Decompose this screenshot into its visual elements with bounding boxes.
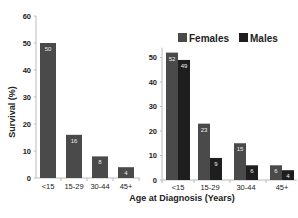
survival-chart: 010203040506050<151615-29830-44445+Survi… (0, 0, 298, 218)
left-bar-<15 (40, 43, 56, 178)
left-x-tick-label: 45+ (120, 182, 133, 191)
right-x-tick-label: <15 (172, 183, 185, 192)
legend-swatch-males (239, 33, 248, 42)
right-x-tick-label: 45+ (276, 183, 289, 192)
right-bar-value-label: 15 (237, 146, 244, 152)
left-x-tick-label: 15-29 (64, 182, 83, 191)
legend-label-males: Males (250, 33, 278, 44)
right-bar-value-label: 23 (201, 127, 208, 133)
left-x-tick-label: 30-44 (90, 182, 109, 191)
right-y-tick-label: 30 (149, 102, 157, 111)
left-y-tick-label: 0 (27, 174, 31, 183)
left-y-tick-label: 60 (23, 12, 31, 21)
right-x-tick-label: 30-44 (236, 183, 255, 192)
left-y-tick-label: 20 (23, 120, 31, 129)
right-y-tick-label: 0 (153, 176, 157, 185)
right-bar-value-label: 52 (169, 56, 176, 62)
right-bar-males-<15 (178, 60, 190, 180)
left-y-tick-label: 40 (23, 66, 31, 75)
right-x-tick-label: 15-29 (200, 183, 219, 192)
right-bar-value-label: 49 (181, 63, 188, 69)
right-y-tick-label: 50 (149, 53, 157, 62)
right-y-tick-label: 20 (149, 127, 157, 136)
left-y-tick-label: 50 (23, 39, 31, 48)
left-y-tick-label: 10 (23, 147, 31, 156)
x-axis-title: Age at Diagnosis (Years) (129, 193, 235, 203)
left-y-tick-label: 30 (23, 93, 31, 102)
y-axis-title: Survival (%) (7, 86, 17, 138)
right-y-tick-label: 40 (149, 78, 157, 87)
right-bar-females-<15 (166, 53, 178, 180)
left-x-tick-label: <15 (42, 182, 55, 191)
left-bar-value-label: 16 (71, 138, 78, 144)
right-y-tick-label: 10 (149, 151, 157, 160)
left-bar-value-label: 50 (45, 46, 52, 52)
legend-swatch-females (178, 33, 187, 42)
legend-label-females: Females (189, 33, 229, 44)
